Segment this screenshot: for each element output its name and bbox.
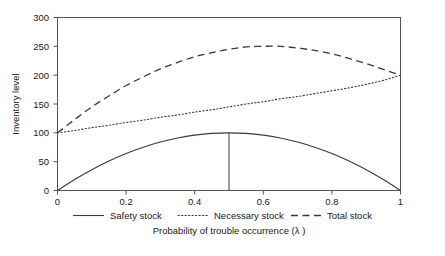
legend-item-necessary-stock: Necessary stock (178, 210, 284, 221)
legend-label: Safety stock (110, 210, 162, 221)
series-necessary-stock (58, 75, 401, 133)
y-tick-label: 0 (44, 185, 49, 196)
legend-item-safety-stock: Safety stock (73, 210, 162, 221)
x-axis-title: Probability of trouble occurrence (λ ) (153, 225, 306, 236)
x-axis-ticks (58, 191, 401, 195)
y-tick-label: 100 (33, 127, 49, 138)
y-axis-tick-labels: 0 50 100 150 200 250 300 (33, 12, 49, 196)
x-axis-tick-labels: 0 0.2 0.4 0.6 0.8 1 (55, 196, 403, 207)
y-axis-title: Inventory level (10, 73, 21, 134)
x-tick-label: 0.4 (188, 196, 201, 207)
legend-label: Necessary stock (214, 210, 284, 221)
figure-container: 0 50 100 150 200 250 300 Inventory level… (0, 0, 445, 256)
y-tick-label: 50 (38, 156, 49, 167)
y-tick-label: 150 (33, 99, 49, 110)
x-tick-label: 0.6 (257, 196, 270, 207)
y-tick-label: 300 (33, 12, 49, 23)
legend-label: Total stock (327, 210, 372, 221)
y-tick-label: 200 (33, 70, 49, 81)
chart-legend: Safety stock Necessary stock Total stock (73, 210, 372, 221)
legend-item-total-stock: Total stock (291, 210, 372, 221)
y-axis-ticks (54, 18, 58, 191)
x-tick-label: 1 (398, 196, 403, 207)
x-tick-label: 0.8 (325, 196, 338, 207)
x-tick-label: 0.2 (119, 196, 132, 207)
y-tick-label: 250 (33, 41, 49, 52)
x-tick-label: 0 (55, 196, 60, 207)
inventory-level-chart: 0 50 100 150 200 250 300 Inventory level… (0, 0, 445, 256)
series-total-stock (58, 46, 401, 133)
